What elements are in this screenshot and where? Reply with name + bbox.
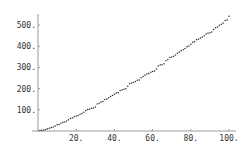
- data-point: [154, 70, 156, 72]
- data-point: [169, 57, 171, 59]
- data-point: [186, 46, 188, 48]
- data-point: [161, 64, 163, 66]
- x-tick-label: 40.: [107, 134, 121, 143]
- data-point: [104, 99, 106, 101]
- data-point: [47, 128, 49, 130]
- data-point: [75, 115, 77, 117]
- data-point: [70, 118, 72, 120]
- data-point: [223, 22, 225, 24]
- data-point: [64, 121, 66, 123]
- data-point: [133, 82, 135, 84]
- data-point: [125, 88, 127, 90]
- data-point: [72, 117, 74, 119]
- data-point: [177, 52, 179, 54]
- y-tick-label: 300.: [17, 63, 36, 72]
- data-point: [121, 89, 123, 91]
- data-point: [53, 126, 55, 128]
- data-point: [156, 68, 158, 70]
- data-point: [79, 114, 81, 116]
- x-tick-label: 100.: [219, 134, 238, 143]
- data-point: [119, 90, 121, 92]
- data-point: [173, 55, 175, 57]
- data-point: [66, 120, 68, 122]
- data-point: [213, 29, 215, 31]
- data-point: [142, 76, 144, 78]
- data-point: [85, 110, 87, 112]
- data-point: [129, 83, 131, 85]
- y-tick-label: 400.: [17, 42, 36, 51]
- data-point: [93, 107, 95, 109]
- data-point: [108, 97, 110, 99]
- data-point: [215, 27, 217, 29]
- data-point: [116, 92, 118, 94]
- y-tick-label: 500.: [17, 21, 36, 30]
- data-point: [137, 80, 139, 82]
- data-point: [96, 103, 98, 105]
- y-tick-label: 100.: [17, 106, 36, 115]
- data-point: [98, 102, 100, 104]
- data-point: [83, 111, 85, 113]
- data-point: [163, 63, 165, 65]
- data-point: [148, 73, 150, 75]
- data-point: [205, 33, 207, 35]
- data-point: [49, 127, 51, 129]
- data-point: [140, 77, 142, 79]
- data-point: [89, 108, 91, 110]
- data-point: [159, 64, 161, 66]
- data-point: [77, 115, 79, 117]
- data-point: [51, 127, 53, 128]
- data-point: [45, 129, 47, 131]
- data-point: [123, 88, 125, 90]
- data-point: [188, 45, 190, 47]
- data-point: [68, 119, 70, 121]
- data-point: [58, 124, 60, 126]
- data-point: [127, 86, 128, 88]
- y-tick-label: 200.: [17, 85, 36, 94]
- data-point: [194, 41, 196, 43]
- data-point: [117, 92, 119, 94]
- data-point: [209, 32, 211, 34]
- y-axis-ticks: 100.200.300.400.500.: [17, 21, 40, 115]
- data-point: [138, 79, 140, 81]
- data-point: [192, 41, 194, 43]
- x-tick-label: 80.: [184, 134, 198, 143]
- data-point: [171, 56, 173, 58]
- data-point: [217, 26, 219, 28]
- data-point: [202, 36, 204, 38]
- data-point: [224, 20, 226, 22]
- data-point: [165, 60, 167, 62]
- data-point: [207, 33, 209, 35]
- data-point: [226, 19, 228, 21]
- data-point: [95, 106, 97, 108]
- data-point: [179, 51, 181, 53]
- data-point: [203, 35, 205, 37]
- data-point: [43, 129, 45, 131]
- data-point: [62, 122, 64, 124]
- data-point: [114, 94, 116, 96]
- data-point: [184, 48, 186, 50]
- data-point: [106, 98, 108, 100]
- data-point: [150, 72, 152, 74]
- data-point: [158, 65, 160, 67]
- data-point: [196, 39, 198, 41]
- data-point: [219, 24, 221, 26]
- data-point: [182, 49, 184, 51]
- data-point: [81, 113, 83, 115]
- data-points: [39, 16, 230, 132]
- data-point: [144, 74, 146, 76]
- data-point: [102, 101, 104, 103]
- data-point: [100, 101, 102, 103]
- data-point: [74, 116, 76, 118]
- x-tick-label: 60.: [145, 134, 159, 143]
- data-point: [175, 54, 177, 56]
- axes: [32, 14, 236, 132]
- data-point: [200, 37, 202, 39]
- data-point: [221, 24, 223, 26]
- data-point: [152, 71, 154, 73]
- data-point: [198, 38, 200, 40]
- data-point: [60, 122, 62, 124]
- data-point: [135, 81, 137, 83]
- data-point: [131, 82, 133, 84]
- data-point: [87, 109, 89, 111]
- data-point: [112, 95, 114, 97]
